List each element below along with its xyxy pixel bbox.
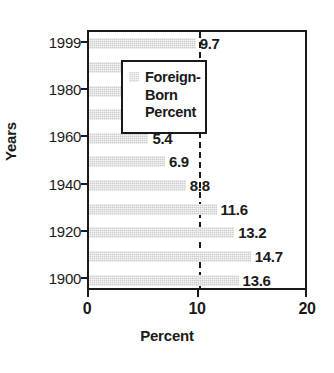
bar-1999 <box>89 38 196 49</box>
bar-row: 13.6 <box>89 268 305 292</box>
legend-label: Foreign- Born Percent <box>145 69 201 122</box>
y-tick-label-1900: 1900 <box>29 270 81 287</box>
y-tick-label-1980: 1980 <box>29 81 81 98</box>
bar-row: 13.2 <box>89 221 305 245</box>
bar-value-label: 9.7 <box>200 36 220 51</box>
x-tick-label-10: 10 <box>177 300 217 318</box>
y-tick-label-1920: 1920 <box>29 222 81 239</box>
x-axis-title: Percent <box>0 327 334 344</box>
bar-1960 <box>89 133 148 144</box>
foreign-born-percent-bar-chart: Years 199919801960194019201900 9.786.24.… <box>0 0 334 373</box>
x-tick-label-20: 20 <box>287 300 327 318</box>
bar-1940 <box>89 180 186 191</box>
legend-label-line-3: Percent <box>145 104 201 122</box>
y-tick-label-1999: 1999 <box>29 33 81 50</box>
y-axis-title: Years <box>2 112 19 172</box>
foreign-born-percent-swatch <box>129 72 139 82</box>
bar-value-label: 6.9 <box>169 154 189 169</box>
bar-value-label: 14.7 <box>255 249 283 264</box>
y-tick-label-1940: 1940 <box>29 175 81 192</box>
bar-row: 9.7 <box>89 32 305 56</box>
legend-label-line-2: Born <box>145 87 201 105</box>
legend: Foreign- Born Percent <box>121 60 207 134</box>
bar-value-label: 13.2 <box>238 225 266 240</box>
bar-1900 <box>89 275 239 286</box>
legend-label-line-1: Foreign- <box>145 69 201 87</box>
bar-value-label: 8.8 <box>190 178 210 193</box>
bar-value-label: 11.6 <box>221 202 248 217</box>
bar-1950 <box>89 156 165 167</box>
y-tick-label-1960: 1960 <box>29 128 81 145</box>
x-tick-mark <box>87 290 89 297</box>
bar-1930 <box>89 204 217 215</box>
bar-1910 <box>89 251 251 262</box>
bar-row: 11.6 <box>89 197 305 221</box>
bar-1920 <box>89 227 234 238</box>
x-tick-label-0: 0 <box>67 300 107 318</box>
bar-value-label: 13.6 <box>243 273 271 288</box>
bar-row: 14.7 <box>89 245 305 269</box>
bar-row: 6.9 <box>89 150 305 174</box>
x-tick-mark <box>197 290 199 297</box>
bar-row: 8.8 <box>89 174 305 198</box>
x-tick-mark <box>305 290 307 297</box>
